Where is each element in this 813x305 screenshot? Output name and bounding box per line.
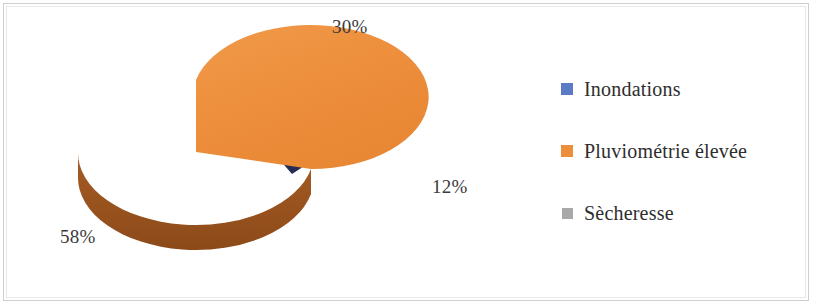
pie-slice-pluviometrie-top <box>196 25 429 169</box>
legend-swatch-inondations <box>561 83 573 95</box>
pie-chart-figure: 30% 12% 58% Inondations Pluviométrie éle… <box>0 0 813 305</box>
chart-legend: Inondations Pluviométrie élevée Sècheres… <box>561 58 806 244</box>
legend-swatch-pluviometrie <box>561 145 573 157</box>
data-label-secheresse: 30% <box>332 16 368 38</box>
pie-slice-pluviometrie[interactable] <box>78 25 429 250</box>
pie-3d-svg <box>60 18 460 288</box>
legend-item-pluviometrie[interactable]: Pluviométrie élevée <box>561 120 806 182</box>
legend-label-secheresse: Sècheresse <box>584 202 674 225</box>
legend-item-secheresse[interactable]: Sècheresse <box>561 182 806 244</box>
legend-label-inondations: Inondations <box>584 78 681 101</box>
pie-slice-pluviometrie-side <box>78 152 311 250</box>
data-label-inondations: 12% <box>432 176 468 198</box>
pie-plot-area <box>60 18 460 288</box>
legend-item-inondations[interactable]: Inondations <box>561 58 806 120</box>
legend-label-pluviometrie: Pluviométrie élevée <box>584 140 747 163</box>
data-label-pluviometrie: 58% <box>60 226 96 248</box>
legend-swatch-secheresse <box>562 208 573 219</box>
